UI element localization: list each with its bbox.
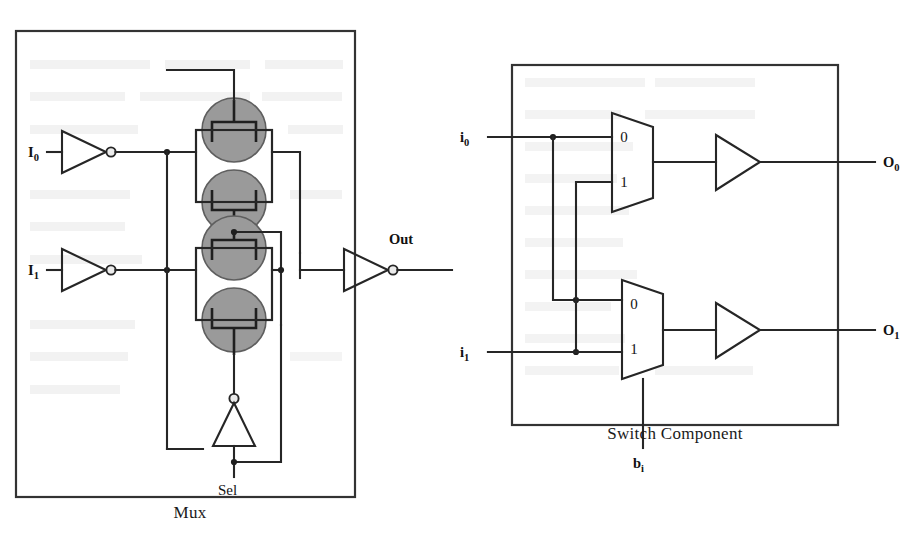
label-sel: Sel bbox=[218, 482, 237, 498]
figure-page: I0 I1 Out Sel Mux bbox=[0, 0, 914, 544]
junction-tg-outputs bbox=[278, 267, 284, 273]
inverter-sel bbox=[213, 403, 255, 446]
label-i0: I0 bbox=[28, 144, 39, 163]
inverter-out-bubble bbox=[388, 265, 397, 274]
mux-top: 0 1 bbox=[612, 113, 653, 212]
switch-component-caption: Switch Component bbox=[565, 424, 785, 444]
mux-figure: I0 I1 Out Sel bbox=[0, 0, 470, 510]
inverter-i1-bubble bbox=[106, 265, 115, 274]
buffer-top bbox=[716, 135, 760, 190]
switch-component-figure: 0 1 0 1 bbox=[440, 0, 914, 470]
mux-bottom-port-0-label: 0 bbox=[630, 296, 638, 312]
label-i0-right: i0 bbox=[460, 129, 469, 148]
label-o0: O0 bbox=[883, 154, 900, 173]
inverter-out bbox=[344, 249, 398, 291]
label-i1-right: i1 bbox=[460, 344, 469, 363]
wire-tg-top-out bbox=[272, 152, 300, 253]
mux-top-port-1-label: 1 bbox=[620, 174, 628, 190]
label-o1: O1 bbox=[883, 322, 900, 341]
inverter-i0-bubble bbox=[106, 147, 115, 156]
label-bi: bi bbox=[633, 455, 644, 474]
buffer-bottom bbox=[716, 303, 760, 358]
transmission-gate-bottom bbox=[196, 216, 272, 355]
label-i1: I1 bbox=[28, 262, 39, 281]
mux-bottom: 0 1 bbox=[622, 280, 663, 379]
switch-component-schematic: 0 1 0 1 bbox=[440, 0, 914, 470]
mux-schematic: I0 I1 Out Sel bbox=[0, 0, 470, 510]
label-out: Out bbox=[389, 231, 413, 247]
inverter-i0 bbox=[62, 131, 116, 173]
page-bleed-through bbox=[30, 60, 343, 394]
tg-bottom-nmos bbox=[202, 288, 266, 355]
junction-sel-split bbox=[231, 459, 237, 465]
mux-caption: Mux bbox=[130, 503, 250, 523]
junction-gate-shared bbox=[231, 229, 237, 235]
mux-bottom-port-1-label: 1 bbox=[630, 341, 638, 357]
mux-top-port-0-label: 0 bbox=[620, 129, 628, 145]
